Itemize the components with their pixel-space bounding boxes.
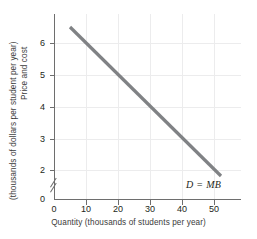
- y-tick-label-2: 2: [29, 165, 45, 175]
- gridline-vertical-30: [150, 14, 151, 200]
- x-tick-label-30: 30: [140, 204, 160, 214]
- y-axis-break-icon: [48, 176, 62, 194]
- demand-curve-annotation: D = MB: [186, 179, 221, 190]
- y-tick-5: [50, 75, 55, 76]
- x-axis-label: Quantity (thousands of students per year…: [0, 218, 257, 227]
- gridline-vertical-20: [118, 14, 119, 200]
- y-tick-label-3: 3: [29, 134, 45, 144]
- y-tick-2: [50, 170, 55, 171]
- gridline-vertical-50: [214, 14, 215, 200]
- y-tick-4: [50, 107, 55, 108]
- gridline-vertical-40: [182, 14, 183, 200]
- x-tick-label-20: 20: [108, 204, 128, 214]
- y-tick-6: [50, 43, 55, 44]
- y-tick-label-0: 0: [29, 194, 45, 204]
- y-tick-3: [50, 139, 55, 140]
- gridline-vertical-10: [86, 14, 87, 200]
- y-axis-label-line2: (thousands of dollars per student per ye…: [9, 41, 18, 200]
- y-tick-label-4: 4: [29, 102, 45, 112]
- x-tick-label-40: 40: [172, 204, 192, 214]
- x-tick-label-50: 50: [204, 204, 224, 214]
- y-tick-label-6: 6: [29, 38, 45, 48]
- x-tick-label-10: 10: [76, 204, 96, 214]
- demand-curve-figure: Price and cost (thousands of dollars per…: [0, 0, 257, 239]
- y-tick-label-5: 5: [29, 70, 45, 80]
- x-tick-label-0: 0: [44, 204, 64, 214]
- x-axis-line: [54, 199, 241, 200]
- y-axis-label-line1: Price and cost: [20, 47, 29, 100]
